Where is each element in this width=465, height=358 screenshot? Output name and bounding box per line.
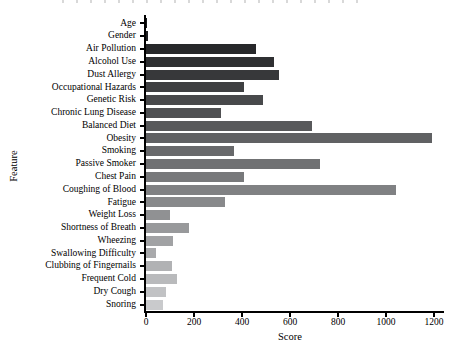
y-tick-label: Genetic Risk [0,94,138,107]
x-tick-label: 800 [331,318,345,328]
x-tick-mark [433,313,435,317]
y-tick-label: Weight Loss [0,209,138,222]
bar [146,44,256,54]
bar [146,82,244,92]
y-tick-label: Clubbing of Fingernails [0,260,138,273]
bar [146,121,312,131]
bar [146,172,244,182]
x-tick-mark [337,313,339,317]
y-tick-label: Wheezing [0,234,138,247]
y-tick-label: Balanced Diet [0,119,138,132]
figure: Feature AgeGenderAir PollutionAlcohol Us… [0,0,465,358]
bar [146,197,225,207]
y-tick-label: Chest Pain [0,170,138,183]
y-tick-label: Chronic Lung Disease [0,106,138,119]
x-tick-label: 1000 [377,318,396,328]
bar [146,236,173,246]
y-tick-label: Alcohol Use [0,55,138,68]
bar [146,57,274,67]
y-tick-label: Passive Smoker [0,158,138,171]
bar [146,287,166,297]
bar [146,185,396,195]
bar [146,300,163,310]
x-tick-mark [385,313,387,317]
x-tick-mark [289,313,291,317]
bar [146,31,148,41]
y-tick-label: Dust Allergy [0,68,138,81]
x-tick-mark [241,313,243,317]
bar [146,108,221,118]
y-tick-label: Fatigue [0,196,138,209]
x-axis-label: Score [146,331,434,342]
y-tick-label: Gender [0,30,138,43]
bar [146,248,156,258]
cropped-title-remnant [62,0,362,3]
y-tick-label: Frequent Cold [0,273,138,286]
y-tick-label: Shortness of Breath [0,222,138,235]
x-tick-label: 600 [283,318,297,328]
y-tick-label: Swallowing Difficulty [0,247,138,260]
y-tick-label: Occupational Hazards [0,81,138,94]
bar [146,261,172,271]
bar [146,210,170,220]
bar [146,95,263,105]
x-tick-mark [193,313,195,317]
y-tick-label: Smoking [0,145,138,158]
y-tick-label: Obesity [0,132,138,145]
bar [146,223,189,233]
bar [146,70,279,80]
x-tick-label: 0 [144,318,149,328]
bar [146,274,177,284]
y-tick-labels: AgeGenderAir PollutionAlcohol UseDust Al… [0,17,138,311]
bar [146,18,147,28]
x-tick-label: 1200 [425,318,444,328]
x-tick-label: 200 [187,318,201,328]
y-tick-label: Coughing of Blood [0,183,138,196]
bar [146,146,234,156]
bar [146,133,432,143]
y-tick-label: Age [0,17,138,30]
y-tick-label: Dry Cough [0,285,138,298]
y-tick-label: Air Pollution [0,43,138,56]
x-axis-line [144,311,444,313]
x-tick-label: 400 [235,318,249,328]
bar [146,159,320,169]
bar-chart-bars [146,17,444,311]
x-tick-mark [145,313,147,317]
y-tick-label: Snoring [0,298,138,311]
